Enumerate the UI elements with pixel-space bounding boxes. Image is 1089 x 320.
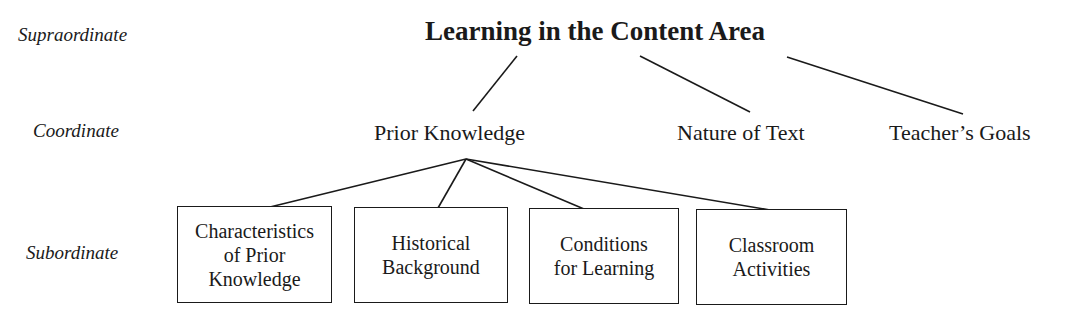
edge-pk-classroom [466, 159, 770, 210]
node-line: Background [382, 255, 480, 279]
edge-pk-characteristics [270, 159, 466, 207]
level-label-coordinate: Coordinate [33, 120, 119, 142]
edge-pk-conditions [466, 159, 584, 209]
subordinate-node-characteristics: Characteristics of Prior Knowledge [177, 206, 332, 303]
edge-root-prior-knowledge [473, 56, 517, 111]
node-line: Historical [392, 231, 471, 255]
coordinate-node-prior-knowledge: Prior Knowledge [374, 120, 525, 146]
coordinate-node-nature-of-text: Nature of Text [677, 120, 805, 146]
level-label-subordinate: Subordinate [26, 242, 118, 264]
node-line: for Learning [554, 256, 655, 280]
node-line: Conditions [560, 232, 648, 256]
root-node: Learning in the Content Area [425, 16, 765, 47]
node-line: of Prior [224, 243, 286, 267]
coordinate-node-teachers-goals: Teacher’s Goals [889, 120, 1031, 146]
node-line: Knowledge [208, 267, 300, 291]
node-line: Characteristics [195, 219, 314, 243]
edge-root-nature-of-text [640, 56, 750, 112]
edge-root-teachers-goals [787, 57, 963, 114]
node-line: Activities [733, 257, 811, 281]
subordinate-node-conditions-for-learning: Conditions for Learning [529, 208, 679, 304]
edge-pk-historical [438, 159, 466, 208]
level-label-supraordinate: Supraordinate [18, 24, 127, 46]
node-line: Classroom [729, 233, 815, 257]
subordinate-node-classroom-activities: Classroom Activities [696, 209, 847, 305]
subordinate-node-historical-background: Historical Background [354, 207, 508, 303]
